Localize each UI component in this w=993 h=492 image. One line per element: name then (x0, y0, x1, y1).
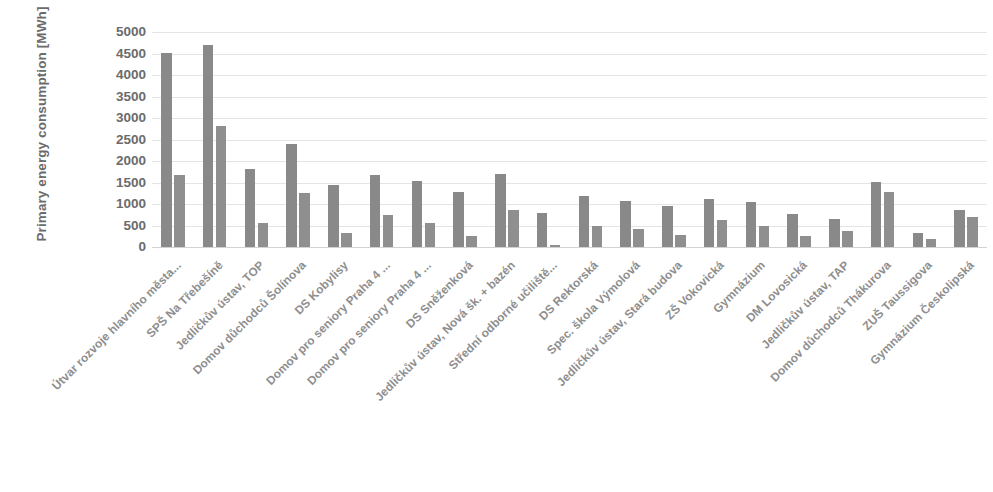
bar-group (579, 32, 603, 247)
bar-group (453, 32, 477, 247)
bar-group (495, 32, 519, 247)
bar (383, 215, 394, 247)
bar (662, 206, 673, 247)
bar (871, 182, 882, 247)
x-axis-tick-label: Domov důchodců Thákurova (587, 258, 894, 492)
x-axis-tick-label: Domov pro seniory Praha 4 ... (127, 258, 434, 492)
bar (592, 226, 603, 248)
y-axis-tick-label: 2000 (96, 154, 146, 168)
gridline (152, 140, 987, 141)
bar (412, 181, 423, 247)
x-axis-tick-label: DS Rektorská (294, 258, 601, 492)
gridline (152, 54, 987, 55)
bar (800, 236, 811, 247)
x-axis-tick-label: DM Lovosická (503, 258, 810, 492)
y-axis-title: Primary energy consumption [MWh] (34, 0, 58, 249)
bar (425, 223, 436, 248)
bar-group (871, 32, 895, 247)
x-axis-tick-label: Střední odborné učiliště... (253, 258, 560, 492)
bar-group (370, 32, 394, 247)
bar (216, 126, 227, 247)
bar-group (662, 32, 686, 247)
bar-group (245, 32, 269, 247)
gridline (152, 118, 987, 119)
bar-group (787, 32, 811, 247)
x-axis-tick-label: DS Sněženková (169, 258, 476, 492)
bar-group (620, 32, 644, 247)
gridline (152, 75, 987, 76)
bar (884, 192, 895, 247)
bar-group (704, 32, 728, 247)
bar-group (954, 32, 978, 247)
x-axis-tick-label: Domov důchodců Šolínova (2, 258, 309, 492)
x-axis-tick-label: Gymnázium Českolipská (670, 258, 977, 492)
bar (466, 236, 477, 247)
x-axis-tick-label: ZUŠ Taussigova (628, 258, 935, 492)
bar (746, 202, 757, 247)
bar (258, 223, 269, 247)
bar-group (328, 32, 352, 247)
bar (161, 53, 172, 247)
y-axis-tick-label: 2500 (96, 133, 146, 147)
bar-group (829, 32, 853, 247)
bar-group (746, 32, 770, 247)
x-axis-tick-label: Jedličkův ústav, Nová šk. + bazén (211, 258, 518, 492)
y-axis-tick-label: 3000 (96, 111, 146, 125)
y-axis-tick-label: 4000 (96, 68, 146, 82)
bar-group (537, 32, 561, 247)
bar (787, 214, 798, 247)
x-axis-tick-label: DS Kobylisy (44, 258, 351, 492)
x-axis-tick-label: SPŠ Na Třebešíně (0, 258, 226, 492)
bar-chart: Primary energy consumption [MWh] 5000450… (0, 0, 993, 492)
bar (620, 201, 631, 247)
y-axis-tick-label: 0 (96, 240, 146, 254)
bar (370, 175, 381, 247)
bar (245, 169, 256, 247)
bar (926, 239, 937, 247)
x-axis-line (152, 247, 987, 248)
y-axis-tick-label: 4500 (96, 47, 146, 61)
bar (579, 196, 590, 247)
bar (842, 231, 853, 247)
x-axis-tick-label: Gymnázium (461, 258, 768, 492)
y-axis-tick-label: 1000 (96, 197, 146, 211)
bar-group (412, 32, 436, 247)
y-axis-tick-label: 5000 (96, 25, 146, 39)
x-axis-tick-label: Jedličkův ústav, Stará budova (378, 258, 685, 492)
bar (174, 175, 185, 247)
bar (508, 210, 519, 247)
bar (967, 217, 978, 247)
bar-group (286, 32, 310, 247)
bar-group (161, 32, 185, 247)
gridline (152, 183, 987, 184)
x-axis-tick-label: Jedličkův ústav, TAP (545, 258, 852, 492)
bar (203, 45, 214, 247)
y-axis-tick-labels: 5000450040003500300025002000150010005000 (96, 24, 146, 256)
bar (633, 229, 644, 247)
bar (341, 233, 352, 247)
bar (717, 220, 728, 247)
bar (913, 233, 924, 247)
bar (495, 174, 506, 247)
x-axis-tick-label: Jedličkův ústav, TOP (0, 258, 267, 492)
y-axis-tick-label: 1500 (96, 176, 146, 190)
x-axis-tick-label: Spec. škola Výmolová (336, 258, 643, 492)
x-axis-tick-label: Útvar rozvoje hlavního města... (0, 258, 184, 492)
bar (453, 192, 464, 247)
gridline (152, 97, 987, 98)
gridline (152, 161, 987, 162)
bar (675, 235, 686, 247)
bar (286, 144, 297, 247)
x-axis-tick-label: Domov pro seniory Praha 4 ... (86, 258, 393, 492)
bar (954, 210, 965, 247)
x-axis-tick-label: ZŠ Vokovická (420, 258, 727, 492)
gridline (152, 204, 987, 205)
y-axis-tick-label: 3500 (96, 90, 146, 104)
bar-group (913, 32, 937, 247)
bar (704, 199, 715, 247)
bar (328, 185, 339, 247)
bar (759, 226, 770, 247)
y-axis-tick-label: 500 (96, 219, 146, 233)
bar (829, 219, 840, 247)
gridline (152, 226, 987, 227)
